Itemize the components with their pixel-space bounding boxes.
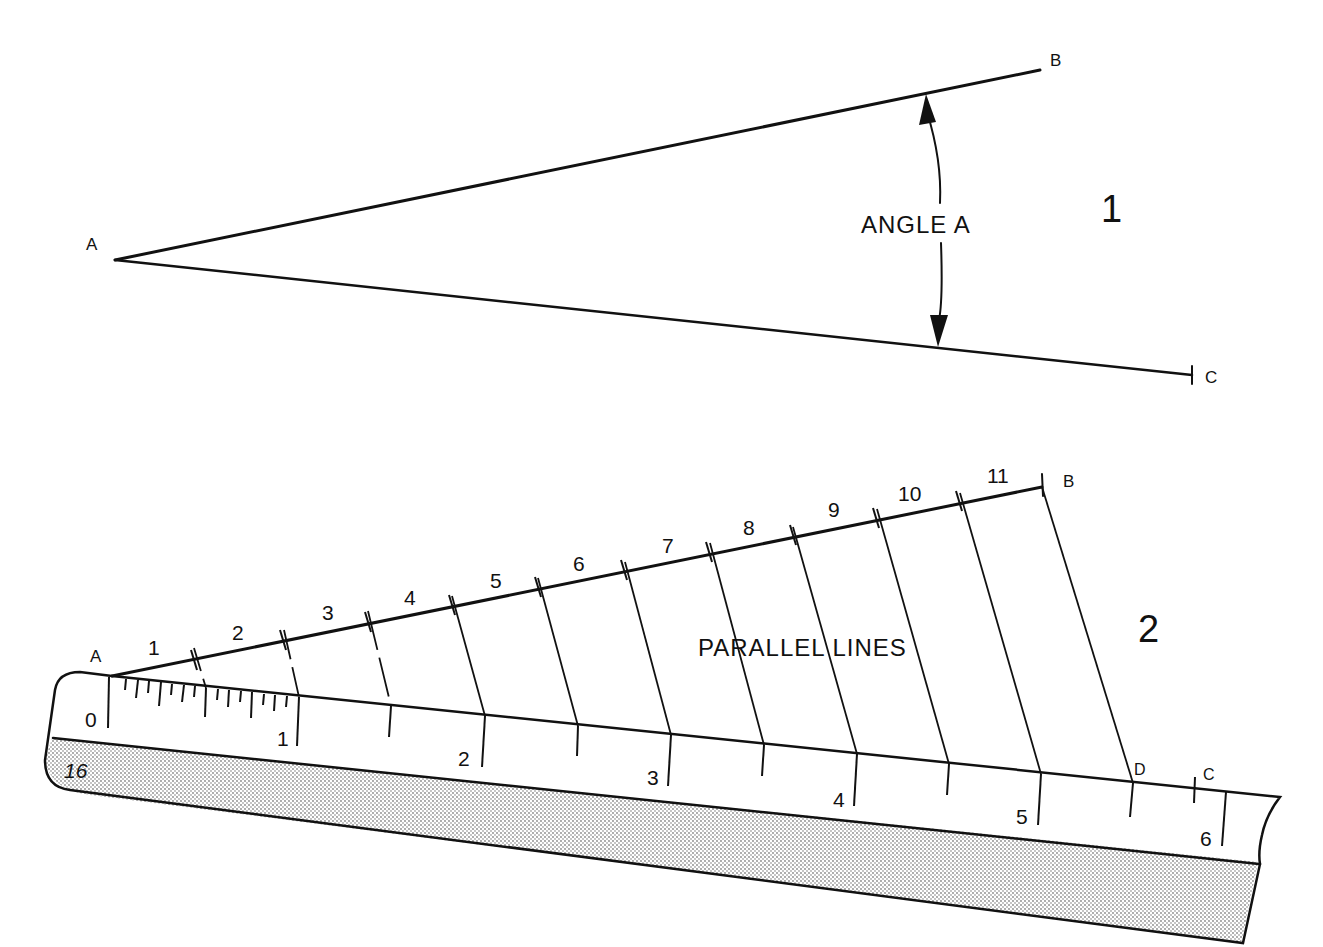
arrowhead-up-icon xyxy=(919,94,936,125)
fig2-label-b: B xyxy=(1063,472,1074,491)
ruler-label: 0 xyxy=(85,708,97,731)
ruler-fine-ticks xyxy=(108,677,299,746)
parallel-lines-label: PARALLEL LINES xyxy=(698,634,907,661)
ab-label: 3 xyxy=(322,601,334,624)
figure-2-number: 2 xyxy=(1138,608,1159,650)
ruler-label: 1 xyxy=(277,727,289,750)
figure-2-ruler-division: 1 2 3 4 5 6 7 8 9 10 11 0 1 2 3 4 5 6 16… xyxy=(45,464,1280,943)
ab-label: 5 xyxy=(490,569,502,592)
arrowhead-down-icon xyxy=(930,315,948,347)
ab-label: 2 xyxy=(232,621,244,644)
angle-label: ANGLE A xyxy=(861,211,971,238)
ab-label: 9 xyxy=(828,498,840,521)
ab-label: 10 xyxy=(898,482,921,505)
ab-division-labels: 1 2 3 4 5 6 7 8 9 10 11 xyxy=(148,464,1009,659)
fig1-label-a: A xyxy=(86,235,98,254)
ruler-label: 5 xyxy=(1016,805,1028,828)
figure-1-angle: A B C ANGLE A 1 xyxy=(86,51,1217,387)
figure-1-number: 1 xyxy=(1101,188,1122,230)
ruler-label: 4 xyxy=(833,788,845,811)
ab-label: 8 xyxy=(743,516,755,539)
tick-c xyxy=(1194,777,1195,803)
diagram-canvas: A B C ANGLE A 1 xyxy=(0,0,1323,947)
ruler-label: 6 xyxy=(1200,827,1212,850)
fig2-label-a: A xyxy=(90,647,102,666)
ab-label: 11 xyxy=(987,464,1009,487)
ab-label: 1 xyxy=(148,636,160,659)
ab-label: 7 xyxy=(662,534,674,557)
ab-label: 6 xyxy=(573,552,585,575)
ruler-label: 2 xyxy=(458,747,470,770)
fig1-label-c: C xyxy=(1205,368,1217,387)
parallel-lines xyxy=(194,487,1133,783)
fig2-label-c: C xyxy=(1203,766,1215,783)
angle-arc-upper xyxy=(927,112,940,203)
ab-label: 4 xyxy=(404,586,416,609)
fig1-label-b: B xyxy=(1050,51,1061,70)
fig2-label-d: D xyxy=(1134,761,1146,778)
ruler-scale-id: 16 xyxy=(64,759,88,782)
angle-arc-lower xyxy=(939,243,942,320)
ruler-label: 3 xyxy=(647,766,659,789)
ray-ac xyxy=(115,260,1192,375)
